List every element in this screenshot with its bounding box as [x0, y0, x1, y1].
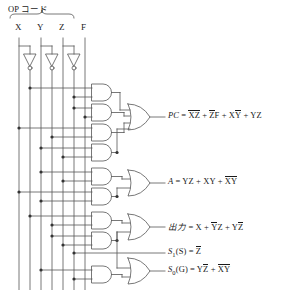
equation-out: 出力 = X + YZ + YZ [168, 220, 243, 232]
and-gate-6 [92, 188, 112, 205]
op-code-title: OP コード [8, 2, 48, 14]
equation-term: YZ [182, 176, 194, 186]
equation-lhs: 出力 [168, 222, 186, 232]
equation-pc: PC = XZ + ZF + XY + YZ [168, 110, 262, 120]
equation-term: ZF [209, 110, 219, 120]
or-gate-out [128, 214, 150, 240]
equation-lhs: S0(G) [168, 264, 188, 274]
or-gate-a [128, 170, 150, 196]
equation-term: YZ [250, 110, 262, 120]
equation-lhs: S1(S) [168, 246, 186, 256]
equation-a: A = YZ + XY + XY [168, 176, 237, 186]
input-label-z: Z [59, 22, 65, 32]
equation-term: XZ [188, 110, 200, 120]
input-label-x: X [15, 22, 22, 32]
and-gate-3 [92, 124, 112, 141]
and-gate-9 [92, 266, 112, 283]
or-gates [128, 104, 150, 284]
junction [115, 151, 118, 154]
equation-term: Z [196, 246, 201, 256]
input-label-y: Y [37, 22, 44, 32]
and-gate-8 [92, 232, 112, 249]
junction [72, 251, 75, 254]
and-gate-2 [92, 104, 112, 121]
equation-term: YZ [197, 264, 209, 274]
and-gate-7 [92, 212, 112, 229]
equation-term: YZ [232, 222, 244, 232]
equation-s1: S1(S) = Z [168, 246, 201, 258]
logic-circuit-diagram: OP コード X Y Z F PC = XZ + ZF + XY + YZ A … [0, 0, 308, 290]
and-gate-5 [92, 168, 112, 185]
equation-lhs: PC [168, 110, 179, 120]
equation-lhs: A [168, 176, 173, 186]
and-gate-1 [92, 84, 112, 101]
equation-term: XY [229, 110, 242, 120]
or-gate-s0 [128, 258, 150, 284]
junction [115, 195, 118, 198]
equation-term: XY [225, 176, 238, 186]
and-gate-4 [92, 144, 112, 161]
equation-term: XY [218, 264, 231, 274]
or-gate-pc [128, 104, 150, 130]
equation-term: X [196, 222, 202, 232]
equation-s0: S0(G) = YZ + XY [168, 264, 230, 276]
equation-term: YZ [211, 222, 223, 232]
input-label-f: F [81, 22, 86, 32]
circuit-svg [0, 0, 308, 290]
equation-term: XY [203, 176, 215, 186]
